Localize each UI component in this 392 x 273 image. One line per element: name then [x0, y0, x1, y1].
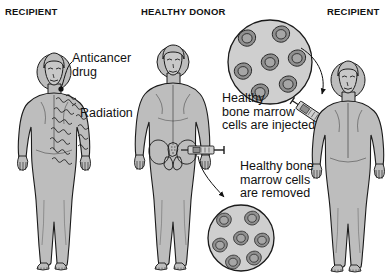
header-healthy-donor: HEALTHY DONOR [141, 6, 226, 17]
header-recipient-right: RECIPIENT [327, 6, 379, 17]
header-recipient-left: RECIPIENT [5, 6, 57, 17]
label-cells-removed: Healthy bone marrow cells are removed [240, 160, 314, 201]
removed-cells-dish [208, 205, 274, 271]
diagram-canvas [0, 0, 392, 273]
label-anticancer-drug: Anticancer drug [72, 52, 131, 79]
bone-marrow-transplant-diagram: RECIPIENT HEALTHY DONOR RECIPIENT Antica… [0, 0, 392, 273]
label-cells-injected: Healthy bone marrow cells are injected [222, 92, 315, 133]
healthy-donor-figure [135, 45, 211, 270]
recipient-treatment-figure [18, 53, 91, 270]
label-radiation: Radiation [80, 107, 133, 121]
